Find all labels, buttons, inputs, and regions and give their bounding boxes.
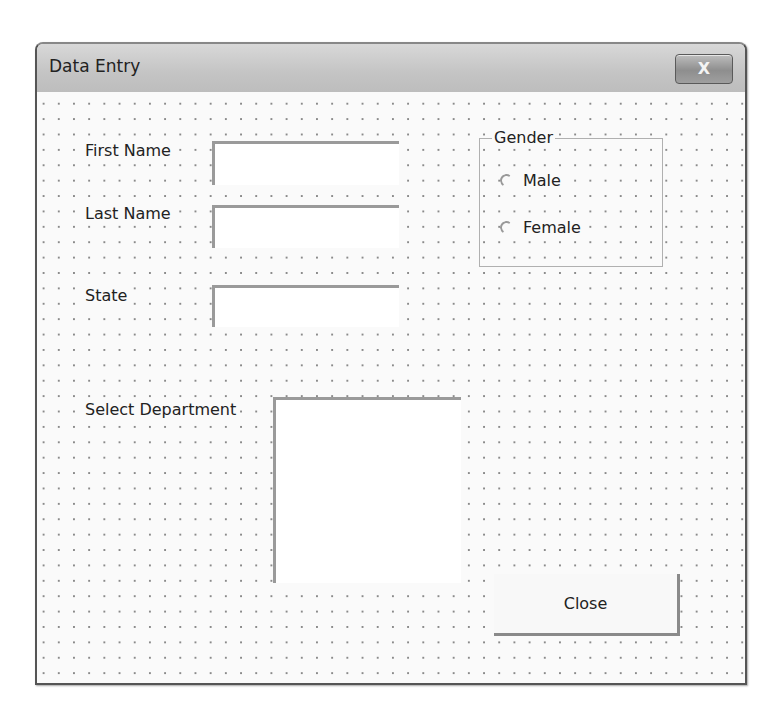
radio-female[interactable]: Female <box>500 218 581 237</box>
radio-male[interactable]: Male <box>500 171 561 190</box>
first-name-input[interactable] <box>212 141 399 185</box>
userform-window: Data Entry X First Name Last Name State … <box>35 42 747 685</box>
state-label: State <box>82 286 130 305</box>
last-name-input[interactable] <box>212 205 399 248</box>
gender-caption: Gender <box>492 128 555 147</box>
state-input[interactable] <box>212 285 399 327</box>
window-title: Data Entry <box>49 56 140 76</box>
window-close-button[interactable]: X <box>675 54 733 84</box>
title-bar[interactable]: Data Entry X <box>37 44 745 92</box>
close-button[interactable]: Close <box>494 574 680 636</box>
department-listbox[interactable] <box>273 397 461 583</box>
form-design-grid: First Name Last Name State Gender Male F… <box>37 92 745 683</box>
last-name-label: Last Name <box>82 204 174 223</box>
radio-female-label: Female <box>523 218 581 237</box>
close-icon: X <box>698 59 710 78</box>
close-button-label: Close <box>564 594 608 613</box>
radio-button-icon <box>499 173 514 188</box>
radio-button-icon <box>499 220 514 235</box>
radio-male-label: Male <box>523 171 561 190</box>
first-name-label: First Name <box>82 141 174 160</box>
department-label: Select Department <box>82 400 239 419</box>
gender-frame: Gender Male Female <box>479 138 663 267</box>
